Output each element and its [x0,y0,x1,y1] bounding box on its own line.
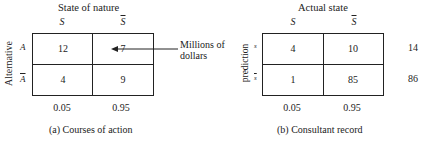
panel-a-col-header-not-s: S [113,16,133,27]
panel-b-col-header-not-s: S [344,16,364,27]
annotation-line-1: Millions of [180,39,225,50]
cell-a-s: 12 [43,43,83,54]
cell-not-a-not-s: 9 [103,74,143,85]
divider [33,64,153,65]
panel-a-col-header-s: S [52,16,72,27]
cell-s-not-s: 10 [333,43,373,54]
panel-a-row-label-a: A [20,42,26,52]
panel-b-caption: (b) Consultant record [277,124,363,135]
panel-b-row-total-not-s: 86 [393,73,427,84]
panel-b-row-axis-label: prediction [240,33,250,93]
panel-b-col-header-s: S [283,16,303,27]
panel-b-prob-not-s: 0.95 [332,102,372,113]
cell-not-s-not-s: 85 [333,74,373,85]
cell-not-a-s: 4 [43,74,83,85]
panel-a-prob-s: 0.05 [42,102,82,113]
annotation: Millions of dollars [180,39,225,61]
divider [263,64,383,65]
panel-a-prob-not-s: 0.95 [101,102,141,113]
panel-b-prob-s: 0.05 [272,102,312,113]
panel-b-table: 4 10 1 85 [262,33,384,96]
panel-b-row-label-not-s: s [254,74,257,82]
cell-not-s-s: 1 [273,74,313,85]
panel-b-title: Actual state [298,2,348,13]
panel-a-row-axis-label: Alternative [3,34,14,94]
panel-a-table: 12 7 4 9 [32,33,154,96]
annotation-line-2: dollars [180,50,225,61]
panel-b-row-total-s: 14 [393,42,427,53]
panel-a-row-label-not-a: A [20,74,26,84]
panel-b-row-label-s: s [254,42,257,50]
panel-a-caption: (a) Courses of action [49,124,133,135]
cell-s-s: 4 [273,43,313,54]
panel-a-title: State of nature [58,2,119,13]
arrow-icon [108,44,188,54]
